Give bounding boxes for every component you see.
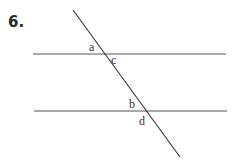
transversal-line: [73, 10, 180, 157]
parallel-lines-diagram: a c b d: [0, 0, 239, 160]
angle-label-a: a: [89, 40, 95, 54]
angle-label-d: d: [139, 114, 145, 128]
angle-label-c: c: [111, 53, 116, 67]
angle-label-b: b: [129, 97, 135, 111]
